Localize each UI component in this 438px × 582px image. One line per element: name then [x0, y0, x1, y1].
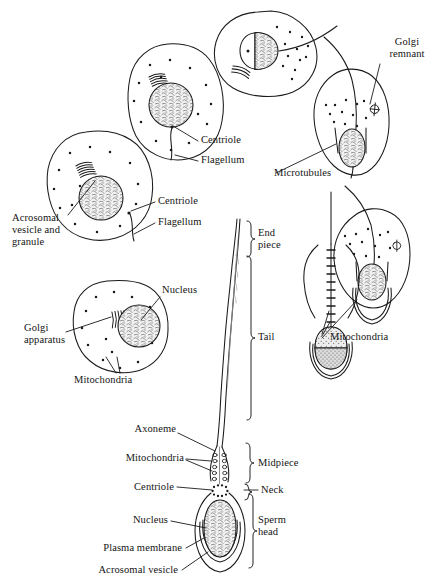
- cell-spermatid-stage5: [73, 280, 168, 372]
- leader-nucleus-sperm: [171, 521, 206, 528]
- leader-flagellum-mid: [134, 223, 155, 234]
- cell-spermatid-stage6: [334, 186, 410, 324]
- leader-golgi-remnant: [370, 64, 380, 104]
- label-mitochondria-left: Mitochondria: [74, 374, 132, 386]
- sperm-mitochondria-detail: [304, 192, 359, 379]
- label-acrosomal-vesicle-and-granule: Acrosomal vesicle and granule: [12, 212, 78, 249]
- leader-mito-left-b: [117, 357, 120, 373]
- diagram-artwork: [0, 0, 438, 582]
- label-tail: Tail: [258, 331, 275, 343]
- leader-mito-sperm-a: [186, 459, 211, 461]
- label-end-piece: End piece: [258, 227, 298, 251]
- figure-canvas: Golgi remnant Microtubules Centriole Fla…: [0, 0, 438, 582]
- leader-centriole-top: [173, 126, 198, 141]
- leader-centriole-sperm: [177, 487, 212, 490]
- leader-acrosomal-vesicle-sperm: [182, 552, 208, 570]
- cell-spermatid-stage2: [214, 11, 337, 97]
- label-acrosomal-vesicle-sperm: Acrosomal vesicle: [66, 564, 178, 576]
- label-nucleus-sperm: Nucleus: [104, 514, 168, 526]
- leader-axoneme: [178, 433, 215, 451]
- leader-centriole-mid: [131, 202, 155, 211]
- leader-mito-sperm-b: [186, 460, 212, 471]
- label-nucleus-left: Nucleus: [162, 284, 197, 296]
- label-centriole-mid: Centriole: [158, 195, 198, 207]
- label-golgi-remnant: Golgi remnant: [378, 36, 436, 60]
- label-mitochondria-sperm: Mitochondria: [84, 452, 184, 464]
- mature-sperm: [195, 219, 245, 572]
- label-flagellum-mid: Flagellum: [158, 216, 201, 228]
- label-midpiece: Midpiece: [258, 457, 298, 469]
- label-flagellum-top: Flagellum: [201, 154, 244, 166]
- label-axoneme: Axoneme: [104, 423, 176, 435]
- label-plasma-membrane: Plasma membrane: [68, 542, 182, 554]
- label-neck: Neck: [261, 484, 284, 496]
- label-sperm-head: Sperm head: [258, 514, 302, 538]
- label-mitochondria-right: Mitochondria: [330, 331, 388, 343]
- label-centriole-sperm: Centriole: [104, 481, 174, 493]
- label-centriole-top: Centriole: [201, 134, 241, 146]
- label-microtubules: Microtubules: [274, 167, 331, 179]
- label-golgi-apparatus: Golgi apparatus: [24, 322, 72, 346]
- brackets: [245, 221, 257, 568]
